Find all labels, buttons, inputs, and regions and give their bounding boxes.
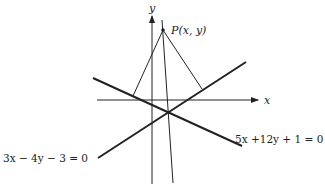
- point-p-label: P(x, y): [170, 24, 206, 37]
- point-p: [161, 28, 165, 32]
- line2-equation-label: 3x − 4y − 3 = 0: [3, 152, 88, 164]
- perpendicular-to-line2: [163, 30, 202, 89]
- perpendicular-to-line1: [133, 30, 163, 96]
- bisector-line: [162, 20, 173, 183]
- line-3x-4y-3: [98, 62, 246, 158]
- angle-bisector-diagram: y x P(x, y) 5x +12y + 1 = 0 3x − 4y − 3 …: [0, 0, 325, 189]
- line1-equation-label: 5x +12y + 1 = 0: [235, 133, 323, 145]
- y-axis-label: y: [148, 2, 156, 15]
- x-axis-label: x: [264, 94, 271, 107]
